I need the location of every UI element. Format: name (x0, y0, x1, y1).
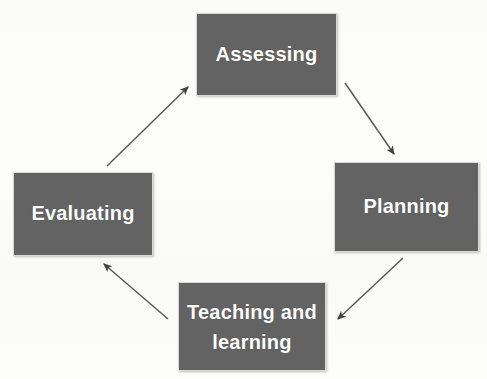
node-planning-label: Planning (357, 194, 455, 220)
arrow-assessing-to-planning (345, 83, 394, 154)
node-assessing-label: Assessing (210, 42, 324, 68)
node-evaluating-label: Evaluating (25, 201, 140, 227)
arrow-planning-to-teaching (338, 258, 403, 319)
arrow-teaching-to-evaluating (104, 264, 168, 319)
arrow-evaluating-to-assessing (107, 87, 188, 166)
node-assessing[interactable]: Assessing (196, 13, 337, 96)
node-teaching-and-learning[interactable]: Teaching and learning (178, 282, 326, 371)
node-planning[interactable]: Planning (334, 162, 479, 252)
diagram-canvas: Assessing Planning Teaching and learning… (0, 0, 487, 379)
node-teaching-and-learning-label: Teaching and learning (181, 297, 323, 357)
node-evaluating[interactable]: Evaluating (13, 172, 153, 256)
